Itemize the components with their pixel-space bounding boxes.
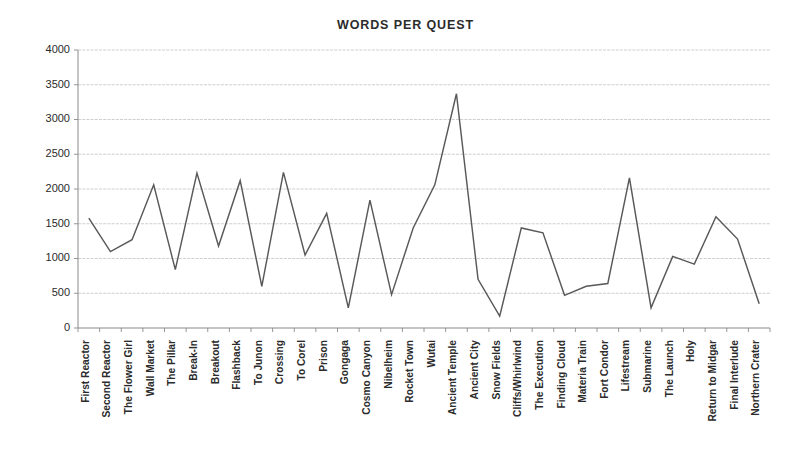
x-tick-label: Nibelheim xyxy=(383,340,394,389)
x-tick-label: Fort Condor xyxy=(599,340,610,399)
x-tick-label: Finding Cloud xyxy=(556,340,567,408)
y-tick-label: 1500 xyxy=(46,217,70,229)
y-tick-label: 4000 xyxy=(46,43,70,55)
y-tick-label: 1000 xyxy=(46,251,70,263)
x-tick-label: Lifestream xyxy=(620,340,631,392)
x-tick-label: To Corel xyxy=(296,340,307,381)
x-tick-label: The Flower Girl xyxy=(123,340,134,414)
x-tick-label: Materia Train xyxy=(577,340,588,403)
x-tick-label: Breakout xyxy=(210,339,221,384)
series-line xyxy=(89,94,759,316)
x-tick-label: The Pillar xyxy=(166,340,177,386)
x-tick-label: Snow Fields xyxy=(491,340,502,400)
x-tick-label: The Launch xyxy=(664,340,675,397)
x-tick-label: Holy xyxy=(685,340,696,362)
gridlines xyxy=(78,50,770,293)
x-tick-label: Break-In xyxy=(188,340,199,381)
line-chart-plot: 05001000150020002500300035004000 First R… xyxy=(0,0,811,454)
x-tick-label: To Junon xyxy=(253,340,264,385)
x-tick-label: Ancient Temple xyxy=(447,340,458,415)
x-tick-label: Crossing xyxy=(274,340,285,384)
x-tick-label: Flashback xyxy=(231,340,242,390)
x-tick-label: Rocket Town xyxy=(404,340,415,403)
y-tick-label: 2500 xyxy=(46,147,70,159)
data-series xyxy=(89,94,759,316)
x-tick-label: Cosmo Canyon xyxy=(361,340,372,415)
x-tick-label: Wutai xyxy=(426,340,437,368)
x-tick-label: First Reactor xyxy=(80,340,91,403)
x-tick-label: Ancient City xyxy=(469,340,480,400)
y-tick-label: 3500 xyxy=(46,78,70,90)
x-tick-label: Return to Midgar xyxy=(707,340,718,422)
x-axis-ticks xyxy=(78,328,770,332)
x-tick-label: Wall Market xyxy=(145,339,156,396)
x-tick-label: Gongaga xyxy=(339,340,350,384)
x-axis-labels: First ReactorSecond ReactorThe Flower Gi… xyxy=(80,339,761,421)
y-tick-label: 500 xyxy=(52,286,70,298)
y-tick-label: 0 xyxy=(64,321,70,333)
x-tick-label: Submarine xyxy=(642,340,653,393)
y-axis-ticks xyxy=(74,50,78,328)
x-tick-label: Second Reactor xyxy=(101,340,112,418)
x-tick-label: Cliffs/Whirlwind xyxy=(512,340,523,417)
y-tick-label: 2000 xyxy=(46,182,70,194)
x-tick-label: Northern Crater xyxy=(750,340,761,416)
x-tick-label: Prison xyxy=(318,340,329,372)
y-tick-label: 3000 xyxy=(46,112,70,124)
y-axis-labels: 05001000150020002500300035004000 xyxy=(46,43,70,333)
x-tick-label: Final Interlude xyxy=(729,340,740,410)
x-tick-label: The Execution xyxy=(534,340,545,410)
chart-container: WORDS PER QUEST 050010001500200025003000… xyxy=(0,0,811,454)
